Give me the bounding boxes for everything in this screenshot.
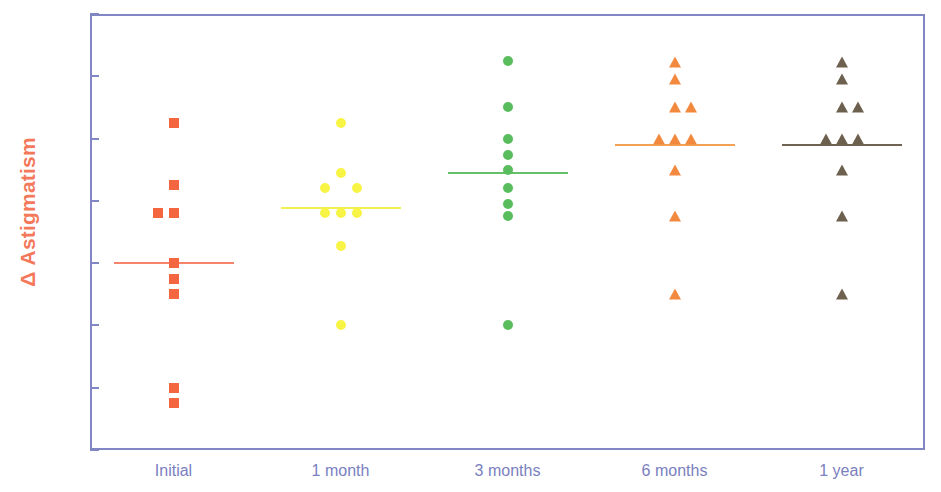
data-point [169, 383, 179, 393]
data-point [669, 102, 681, 113]
data-point [169, 180, 179, 190]
scatter-chart: Δ Astigmatism 0-1-2-3-4-5-6-7 Initial1 m… [0, 0, 941, 492]
data-point [685, 102, 697, 113]
data-point [669, 211, 681, 222]
data-point [503, 165, 513, 175]
y-tick-mark [90, 200, 99, 202]
x-tick-label-initial: Initial [155, 462, 192, 480]
data-point [336, 168, 346, 178]
data-point [852, 102, 864, 113]
data-point [669, 74, 681, 85]
data-point [503, 211, 513, 221]
plot-area [90, 14, 925, 450]
data-point [836, 211, 848, 222]
data-point [820, 133, 832, 144]
y-tick-mark [90, 75, 99, 77]
data-point [169, 258, 179, 268]
mean-line-6-months [615, 144, 735, 146]
data-point [836, 289, 848, 300]
data-point [169, 289, 179, 299]
data-point [669, 164, 681, 175]
data-point [352, 208, 362, 218]
data-point [836, 74, 848, 85]
data-point [169, 208, 179, 218]
data-point [336, 320, 346, 330]
data-point [169, 274, 179, 284]
data-point [503, 102, 513, 112]
x-tick-label-6-months: 6 months [642, 462, 708, 480]
x-tick-label-1-month: 1 month [312, 462, 370, 480]
data-point [503, 134, 513, 144]
data-point [503, 56, 513, 66]
data-point [836, 102, 848, 113]
data-point [836, 133, 848, 144]
data-point [336, 208, 346, 218]
y-axis-title: Δ Astigmatism [16, 112, 40, 312]
data-point [503, 320, 513, 330]
data-point [852, 133, 864, 144]
data-point [336, 241, 346, 251]
x-tick-label-3-months: 3 months [475, 462, 541, 480]
data-point [836, 56, 848, 67]
y-tick-mark [90, 387, 99, 389]
data-point [669, 133, 681, 144]
data-point [685, 133, 697, 144]
data-point [653, 133, 665, 144]
y-tick-mark [90, 138, 99, 140]
x-tick-label-1-year: 1 year [819, 462, 863, 480]
data-point [320, 183, 330, 193]
data-point [669, 56, 681, 67]
mean-line-1-year [782, 144, 902, 146]
data-point [153, 208, 163, 218]
y-tick-mark [90, 449, 99, 451]
data-point [336, 118, 346, 128]
data-point [503, 199, 513, 209]
y-tick-mark [90, 262, 99, 264]
data-point [836, 164, 848, 175]
y-tick-mark [90, 13, 99, 15]
data-point [503, 183, 513, 193]
data-point [352, 183, 362, 193]
data-point [320, 208, 330, 218]
data-point [169, 118, 179, 128]
data-point [503, 150, 513, 160]
y-tick-mark [90, 324, 99, 326]
data-point [669, 289, 681, 300]
data-point [169, 398, 179, 408]
